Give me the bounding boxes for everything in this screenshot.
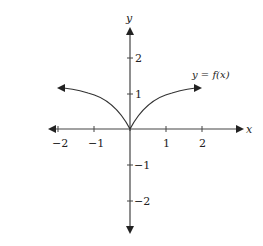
y-axis-label: y <box>125 12 133 25</box>
function-curve-left <box>59 88 130 129</box>
x-tick-label: −2 <box>52 137 68 150</box>
y-tick-label: −1 <box>134 159 150 172</box>
x-tick-label: 1 <box>163 137 170 150</box>
x-axis-label: x <box>246 123 253 136</box>
y-tick-label: 2 <box>135 52 142 65</box>
function-graph: x y −2 −1 1 2 2 1 −1 −2 y = f(x) <box>0 0 263 246</box>
x-tick-label: −1 <box>88 137 104 150</box>
y-tick-label: −2 <box>134 195 150 208</box>
x-tick-label: 2 <box>199 137 206 150</box>
y-tick-label: 1 <box>135 88 142 101</box>
function-label: y = f(x) <box>191 69 230 80</box>
